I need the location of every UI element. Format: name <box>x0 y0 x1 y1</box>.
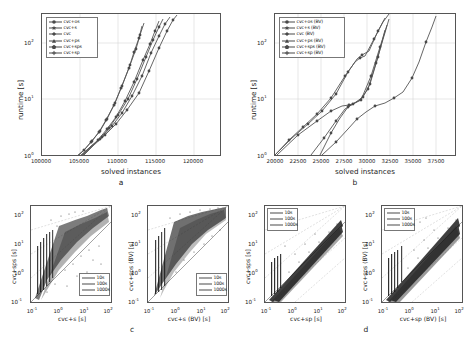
panel-b-ylabel: runtime [s] <box>249 80 258 120</box>
scatter-4-xtick: 102 <box>454 306 463 314</box>
scatter-1-xtick: 10-1 <box>27 306 38 314</box>
scatter-1: 10s 100s 1000s 102 101 100 10-1 10-1 100… <box>0 196 117 341</box>
scatter-1-ylabel: cvc+sps [s] <box>10 249 17 284</box>
panel-b-xtick: 37500 <box>428 158 445 164</box>
panel-a-ylabel: runtime [s] <box>16 80 25 120</box>
scatter-3-ylabel: cvc+sps [s] <box>244 249 251 284</box>
legend-label: 1000s <box>212 287 227 293</box>
panel-b-ytick: 102 <box>257 38 267 46</box>
panel-b-xtick: 32500 <box>382 158 399 164</box>
threshold-line-icon <box>82 275 95 281</box>
scatter-4-xtick: 10-1 <box>378 306 389 314</box>
plus-marker-icon <box>282 50 295 56</box>
scatter-3-ytick: 10-1 <box>245 297 256 305</box>
threshold-line-icon <box>387 210 400 216</box>
scatter-1-xtick: 101 <box>79 306 88 314</box>
scatter-4: 10s 100s 1000s 102 101 100 10-1 10-1 100… <box>351 196 467 341</box>
scatter-2-ytick: 10-1 <box>128 297 139 305</box>
legend-label: cvc+sp (BV) <box>295 50 323 56</box>
pentagon-marker-icon <box>49 44 62 50</box>
threshold-line-icon <box>387 216 400 222</box>
scatter-3-ytick: 102 <box>248 210 258 218</box>
panel-a-ytick: 101 <box>24 94 34 102</box>
plus-marker-icon <box>49 50 62 56</box>
scatter-3-xtick: 101 <box>313 306 322 314</box>
threshold-line-icon <box>199 281 212 287</box>
scatter-3-legend: 10s 100s 1000s <box>267 208 298 231</box>
scatter-4-ytick: 102 <box>365 210 375 218</box>
scatter-2-xtick: 100 <box>170 306 179 314</box>
panel-b-xtick: 22500 <box>290 158 307 164</box>
legend-label: 1000s <box>400 222 415 228</box>
panel-a-xtick: 110000 <box>107 158 127 164</box>
scatter-2-xtick: 10-1 <box>144 306 155 314</box>
scatter-1-ytick: 102 <box>14 210 24 218</box>
panel-b-ytick: 100 <box>257 151 267 159</box>
panel-b-xtick: 30000 <box>359 158 376 164</box>
legend-item: 1000s <box>387 222 412 228</box>
scatter-3-ytick: 101 <box>248 239 258 247</box>
scatter-4-xlabel: cvc+sp (BV) [s] <box>383 315 463 322</box>
scatter-2-ytick: 102 <box>131 210 141 218</box>
scatter-4-ylabel: cvc+sps (BV) [s] <box>361 241 368 291</box>
panel-a-xtick: 100000 <box>31 158 51 164</box>
threshold-line-icon <box>199 287 212 293</box>
scatter-3: 10s 100s 1000s 102 101 100 10-1 10-1 100… <box>234 196 351 341</box>
threshold-line-icon <box>270 222 283 228</box>
scatter-1-ytick: 101 <box>14 239 24 247</box>
scatter-4-legend: 10s 100s 1000s <box>384 208 415 231</box>
scatter-4-xtick: 100 <box>404 306 413 314</box>
panel-a: cvc+os cvc+s cvc cvc+ps cvc+sps cvc+sp 1… <box>0 0 233 190</box>
panel-b-xtick: 20000 <box>267 158 284 164</box>
panel-a-ytick: 102 <box>24 38 34 46</box>
scatter-2-legend: 10s 100s 1000s <box>196 273 227 296</box>
legend-item: 1000s <box>199 287 224 293</box>
panel-a-xtick: 120000 <box>183 158 203 164</box>
panel-b-legend: cvc+os (BV) cvc+s (BV) cvc (BV) cvc+ps (… <box>279 17 345 58</box>
panel-b-xlabel: solved instances <box>315 167 415 176</box>
circle-marker-icon <box>49 19 62 25</box>
threshold-line-icon <box>82 287 95 293</box>
scatter-3-xtick: 102 <box>337 306 346 314</box>
scatter-1-legend: 10s 100s 1000s <box>79 273 110 296</box>
panel-b-ytick: 101 <box>257 94 267 102</box>
threshold-line-icon <box>199 275 212 281</box>
triangle-marker-icon <box>282 38 295 44</box>
scatter-1-xtick: 102 <box>103 306 112 314</box>
legend-item: 1000s <box>270 222 295 228</box>
scatter-4-ytick: 10-1 <box>362 297 373 305</box>
scatter-4-letter: d <box>356 325 376 334</box>
scatter-3-xtick: 100 <box>287 306 296 314</box>
diamond-marker-icon <box>49 31 62 37</box>
threshold-line-icon <box>387 222 400 228</box>
legend-label: 1000s <box>283 222 298 228</box>
pentagon-marker-icon <box>282 44 295 50</box>
circle-marker-icon <box>282 19 295 25</box>
panel-b-letter: b <box>345 178 365 187</box>
panel-b-xtick: 25000 <box>313 158 330 164</box>
scatter-2-xtick: 101 <box>196 306 205 314</box>
panel-a-legend: cvc+os cvc+s cvc cvc+ps cvc+sps cvc+sp <box>46 17 98 58</box>
legend-label: cvc+sp <box>62 50 80 56</box>
star-marker-icon <box>282 25 295 31</box>
panel-b-xtick: 27500 <box>336 158 353 164</box>
scatter-2-xtick: 102 <box>220 306 229 314</box>
scatter-4-xtick: 101 <box>430 306 439 314</box>
legend-label: 1000s <box>95 287 110 293</box>
scatter-1-xlabel: cvc+s [s] <box>37 315 107 322</box>
panel-a-xtick: 115000 <box>145 158 165 164</box>
scatter-2-xlabel: cvc+s (BV) [s] <box>149 315 229 322</box>
triangle-marker-icon <box>49 38 62 44</box>
scatter-1-ytick: 10-1 <box>11 297 22 305</box>
scatter-3-xlabel: cvc+sp [s] <box>271 315 341 322</box>
scatter-1-xtick: 100 <box>53 306 62 314</box>
panel-a-letter: a <box>111 178 131 187</box>
legend-item: 1000s <box>82 287 107 293</box>
panel-a-xlabel: solved instances <box>81 167 181 176</box>
star-marker-icon <box>49 25 62 31</box>
scatter-2-ylabel: cvc+sps (BV) [s] <box>127 241 134 291</box>
scatter-2-letter: c <box>122 325 142 334</box>
diamond-marker-icon <box>282 31 295 37</box>
threshold-line-icon <box>82 281 95 287</box>
legend-item: cvc+sp <box>49 50 95 56</box>
